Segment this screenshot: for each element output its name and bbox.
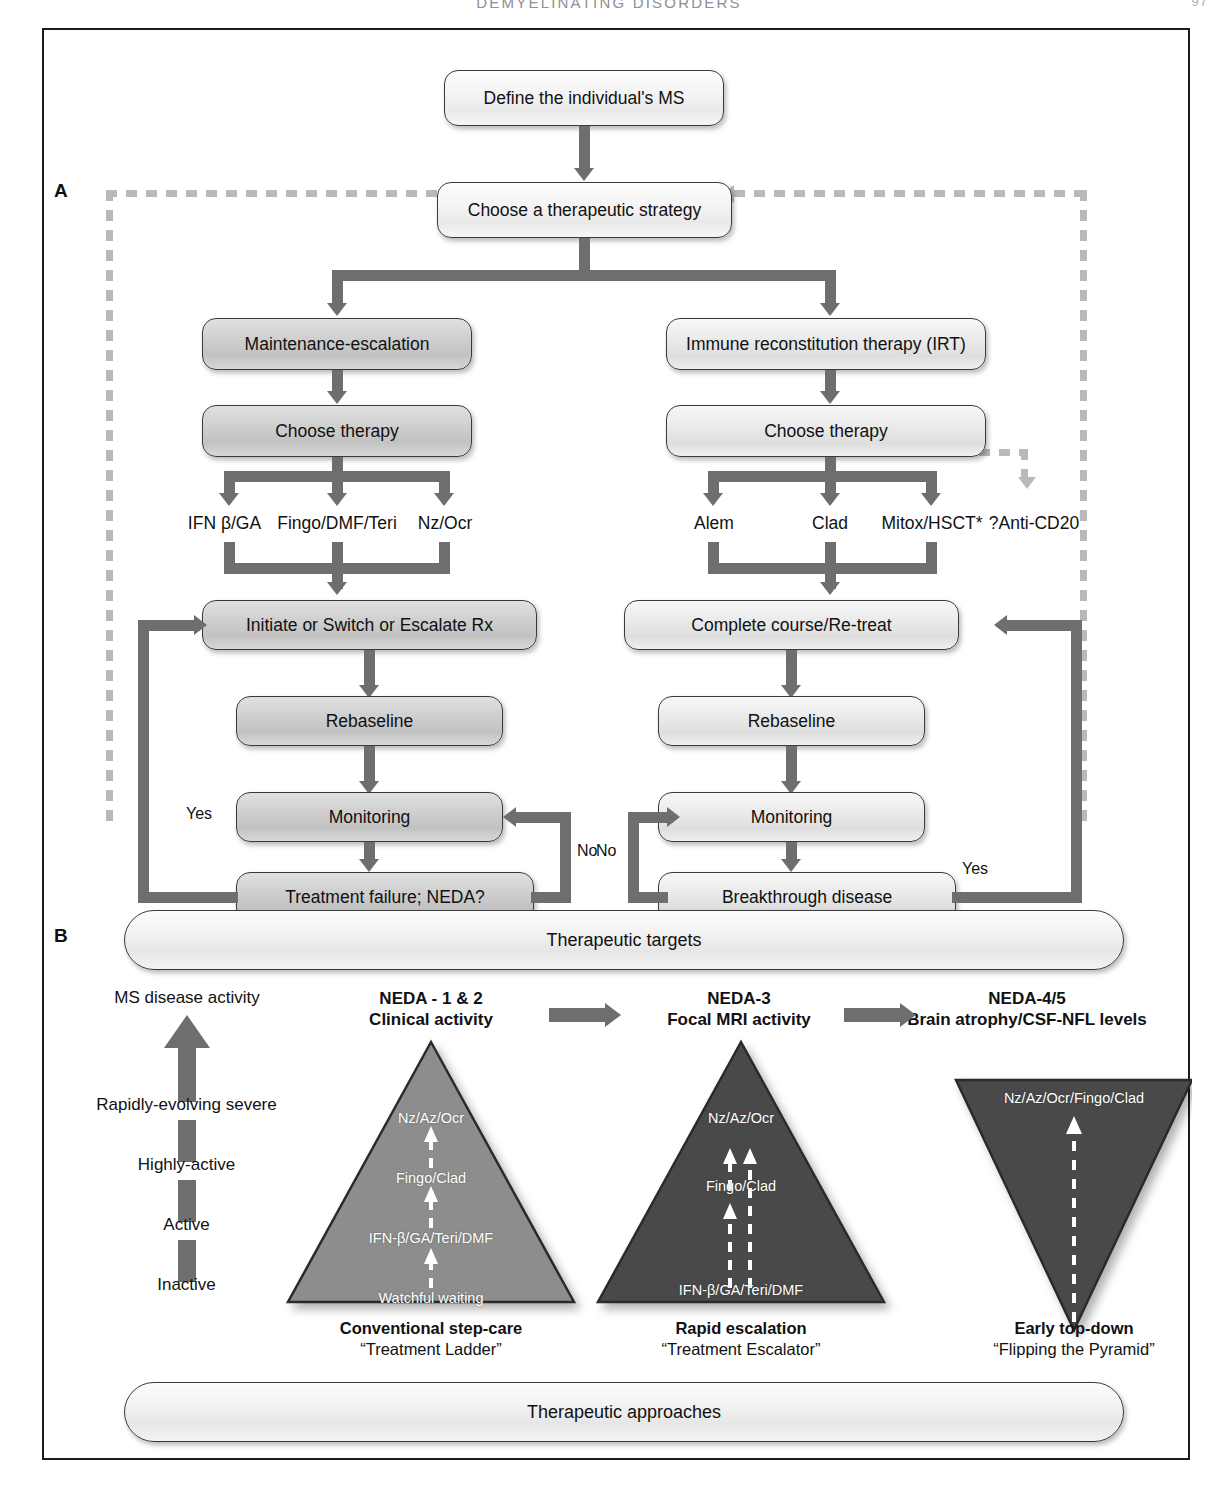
caption-conventional-step-care: Conventional step-care “Treatment Ladder… [301,1318,561,1361]
axis-arrow-head [164,1015,210,1070]
dashed-loop-top-right [734,190,1087,197]
stage-arrow-2-shaft [844,1008,902,1022]
connector-rebaseline-to-monitoring-right [786,746,797,786]
tri2-arrowC-head [723,1148,737,1164]
arrowhead-monitoring-to-failure [359,859,379,872]
dashed-arrow-anticd20 [1018,477,1036,489]
node-choose-therapy-left-label: Choose therapy [275,421,399,441]
arrowhead-no-left-into-monitoring [503,807,516,827]
node-maintenance-escalation[interactable]: Maintenance-escalation [202,318,472,370]
node-choose-therapy-right[interactable]: Choose therapy [666,405,986,457]
tri3-step-nz-az-ocr-fingo-clad: Nz/Az/Ocr/Fingo/Clad [969,1090,1179,1106]
node-irt[interactable]: Immune reconstitution therapy (IRT) [666,318,986,370]
stage-heading-neda-4-5: NEDA-4/5 Brain atrophy/CSF-NFL levels [882,988,1172,1031]
node-rebaseline-right-label: Rebaseline [748,711,836,731]
bar-therapeutic-targets[interactable]: Therapeutic targets [124,910,1124,970]
bar-therapeutic-approaches[interactable]: Therapeutic approaches [124,1382,1124,1442]
caption-early-top-down: Early top-down “Flipping the Pyramid” [944,1318,1204,1361]
node-choose-strategy[interactable]: Choose a therapeutic strategy [437,182,732,238]
caption-sub-2: “Treatment Escalator” [611,1339,871,1360]
panel-letter-a: A [54,180,68,202]
connector-no-left-vertical [560,812,571,898]
stage-subtitle-3: Brain atrophy/CSF-NFL levels [882,1009,1172,1030]
axis-level-rapidly-evolving-severe: Rapidly-evolving severe [64,1095,309,1115]
edge-label-yes-left: Yes [186,805,212,823]
node-choose-therapy-left[interactable]: Choose therapy [202,405,472,457]
figure-frame: A Define the individual's MS Choose a th… [42,28,1190,1460]
connector-complete-to-rebaseline [786,650,797,690]
connector-define-to-strategy [579,126,590,172]
arrowhead-right-branch-3 [921,493,941,506]
tri1-arrow2-head [424,1186,438,1202]
arrowhead-define-to-strategy [574,168,594,181]
node-rebaseline-right[interactable]: Rebaseline [658,696,925,746]
connector-initiate-to-rebaseline [364,650,375,690]
node-irt-label: Immune reconstitution therapy (IRT) [686,334,966,354]
stage-subtitle-2: Focal MRI activity [629,1009,849,1030]
connector-yes-left-bottom [138,892,238,903]
connector-no-right-vertical [628,812,639,898]
node-define-ms[interactable]: Define the individual's MS [444,70,724,126]
stage-title-1: NEDA - 1 & 2 [321,988,541,1009]
drug-label-alem: Alem [659,513,769,534]
node-monitoring-right[interactable]: Monitoring [658,792,925,842]
connector-yes-left-top [138,620,200,631]
axis-title-ms-disease-activity: MS disease activity [72,988,302,1008]
running-head: DEMYELINATING DISORDERS [0,0,1218,11]
arrowhead-to-maintenance [327,303,347,316]
connector-right-merge-bar [708,563,937,574]
axis-level-active: Active [64,1215,309,1235]
connector-yes-right-top [1006,620,1076,631]
arrowhead-monitoring-to-breakthrough [781,859,801,872]
arrowhead-maintenance-to-choose [327,391,347,404]
stage-title-2: NEDA-3 [629,988,849,1009]
figure-page: DEMYELINATING DISORDERS 97 A Define the … [0,0,1218,1490]
node-monitoring-left[interactable]: Monitoring [236,792,503,842]
edge-label-no-right: No [596,842,616,860]
arrowhead-right-branch-2 [820,493,840,506]
stage-heading-neda-3: NEDA-3 Focal MRI activity [629,988,849,1031]
tri1-step-nz-az-ocr: Nz/Az/Ocr [351,1110,511,1126]
tri2-arrowA-head [723,1203,737,1219]
tri2-arrowB-head [743,1148,757,1164]
node-rebaseline-left[interactable]: Rebaseline [236,696,503,746]
tri1-arrow3-head [424,1126,438,1142]
arrowhead-right-merge [820,582,840,595]
connector-strategy-split-bar [332,270,836,281]
arrowhead-no-right-into-monitoring [667,807,680,827]
dashed-loop-left-vertical [106,190,113,830]
arrowhead-yes-left-into-initiate [194,615,207,635]
tri1-step-watchful-waiting: Watchful waiting [341,1290,521,1306]
panel-letter-b: B [54,925,68,947]
triangles-svg [44,30,1192,1462]
arrowhead-to-irt [820,303,840,316]
stage-arrow-1-shaft [549,1008,607,1022]
dashed-loop-top-left [106,190,446,197]
bar-therapeutic-targets-label: Therapeutic targets [546,930,701,951]
node-initiate-label: Initiate or Switch or Escalate Rx [246,615,493,635]
dashed-anticd20-vertical [1021,449,1028,479]
arrowhead-left-branch-2 [327,493,347,506]
connector-no-left-top [516,812,566,823]
connector-yes-left-vertical [138,620,149,903]
drug-label-anti-cd20: ?Anti-CD20 [964,513,1104,534]
tri3-arrow-head [1066,1116,1082,1134]
connector-yes-right-bottom [952,892,1082,903]
caption-title-1: Conventional step-care [301,1318,561,1339]
axis-arrow-svg [44,30,1192,1462]
node-rebaseline-left-label: Rebaseline [326,711,414,731]
stage-heading-neda-1-2: NEDA - 1 & 2 Clinical activity [321,988,541,1031]
node-initiate-switch-escalate[interactable]: Initiate or Switch or Escalate Rx [202,600,537,650]
edge-label-no-left: No [577,842,597,860]
tri2-step-nz-az-ocr: Nz/Az/Ocr [661,1110,821,1126]
node-choose-therapy-right-label: Choose therapy [764,421,888,441]
arrowhead-left-branch-3 [434,493,454,506]
node-complete-course[interactable]: Complete course/Re-treat [624,600,959,650]
arrowhead-yes-right-into-complete [994,615,1007,635]
connector-yes-right-vertical [1071,620,1082,903]
node-breakthrough-disease-label: Breakthrough disease [722,887,892,907]
arrowhead-left-branch-1 [219,493,239,506]
tri2-step-ifn-ga-teri-dmf: IFN-β/GA/Teri/DMF [636,1282,846,1298]
stage-arrow-2-head [900,1003,916,1027]
axis-level-highly-active: Highly-active [64,1155,309,1175]
